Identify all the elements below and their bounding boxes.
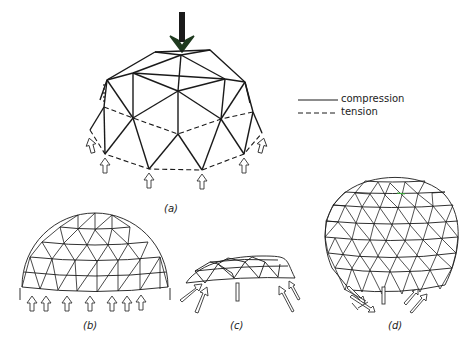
dome-a [90, 12, 262, 170]
legend-label-compression: compression [341, 93, 404, 104]
support-arrows-d [344, 286, 427, 313]
geodesic-dome-diagram: compression tension (a) (b) (c) (d) [0, 0, 472, 359]
panel-label-d: (d) [388, 320, 402, 331]
legend-item-compression: compression [341, 93, 404, 104]
dome-b [20, 213, 170, 300]
dome-d [325, 177, 458, 294]
diagram-canvas [0, 0, 472, 359]
legend [298, 100, 338, 113]
panel-label-c: (c) [230, 320, 243, 331]
panel-label-b: (b) [83, 320, 97, 331]
legend-label-tension: tension [341, 106, 378, 117]
load-arrow-icon [170, 12, 194, 52]
dome-c [186, 256, 295, 283]
legend-item-tension: tension [341, 106, 378, 117]
support-arrows-b [27, 295, 146, 311]
support-arrows-c [180, 281, 300, 313]
panel-label-a: (a) [164, 203, 178, 214]
